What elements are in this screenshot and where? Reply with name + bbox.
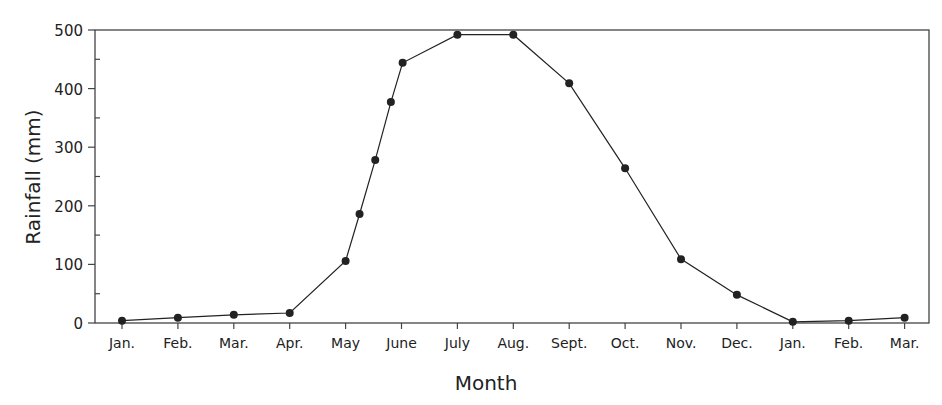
x-tick-label: May xyxy=(331,335,360,351)
data-point-marker xyxy=(789,318,797,326)
x-tick-label: Oct. xyxy=(611,335,640,351)
rainfall-chart: 0100200300400500 Jan.Feb.Mar.Apr.MayJune… xyxy=(0,0,942,405)
x-tick-label: June xyxy=(385,335,417,351)
data-point-marker xyxy=(356,210,364,218)
data-point-marker xyxy=(230,311,238,319)
data-point-marker xyxy=(733,291,741,299)
x-tick-label: Apr. xyxy=(276,335,303,351)
data-series xyxy=(118,31,909,326)
x-tick-label: Feb. xyxy=(163,335,192,351)
x-tick-label: Mar. xyxy=(219,335,249,351)
y-tick-label: 200 xyxy=(54,198,83,216)
data-point-marker xyxy=(174,314,182,322)
data-point-marker xyxy=(453,31,461,39)
x-tick-label: Dec. xyxy=(721,335,753,351)
y-tick-label: 100 xyxy=(54,256,83,274)
x-axis: Jan.Feb.Mar.Apr.MayJuneJulyAug.Sept.Oct.… xyxy=(108,323,919,351)
data-point-marker xyxy=(621,164,629,172)
data-point-marker xyxy=(565,79,573,87)
data-point-marker xyxy=(387,98,395,106)
x-tick-label: Aug. xyxy=(497,335,529,351)
x-tick-label: Jan. xyxy=(108,335,135,351)
data-point-marker xyxy=(677,255,685,263)
data-point-marker xyxy=(371,156,379,164)
y-tick-label: 500 xyxy=(54,22,83,40)
data-point-marker xyxy=(286,309,294,317)
data-point-marker xyxy=(901,314,909,322)
y-tick-label: 400 xyxy=(54,81,83,99)
data-point-marker xyxy=(509,31,517,39)
x-tick-label: Sept. xyxy=(551,335,587,351)
series-line xyxy=(122,35,905,322)
x-tick-label: Feb. xyxy=(834,335,863,351)
x-tick-label: Nov. xyxy=(666,335,697,351)
x-axis-title: Month xyxy=(455,371,518,395)
data-point-marker xyxy=(399,59,407,67)
plot-frame xyxy=(95,30,929,323)
plot-border xyxy=(95,30,929,323)
x-tick-label: Jan. xyxy=(779,335,806,351)
x-tick-label: July xyxy=(444,335,470,351)
y-tick-label: 300 xyxy=(54,139,83,157)
data-point-marker xyxy=(845,317,853,325)
data-point-marker xyxy=(342,257,350,265)
y-axis-title: Rainfall (mm) xyxy=(21,109,45,244)
x-tick-label: Mar. xyxy=(890,335,920,351)
y-tick-label: 0 xyxy=(73,315,83,333)
y-axis: 0100200300400500 xyxy=(54,22,100,333)
data-point-marker xyxy=(118,317,126,325)
